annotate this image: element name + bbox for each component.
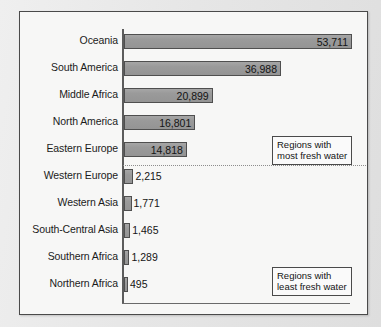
bar-value-label: 16,801	[125, 116, 191, 131]
bar-chart-plot-area: Oceania53,711South America36,988Middle A…	[20, 12, 367, 314]
value-axis-baseline	[122, 303, 350, 304]
bar	[124, 169, 133, 184]
bar	[124, 223, 130, 238]
bar-row: Western Asia1,771	[20, 196, 367, 211]
group-divider-dotted-line	[123, 165, 366, 166]
bar-value-label: 1,465	[132, 223, 158, 238]
bar-value-label: 495	[130, 277, 148, 292]
callout-least-line-2: least fresh water	[277, 281, 347, 292]
bar-value-label: 14,818	[125, 143, 183, 158]
bar: 16,801	[124, 115, 195, 130]
category-label: Eastern Europe	[0, 141, 118, 156]
callout-most-line-1: Regions with	[277, 139, 347, 150]
bar-value-label: 20,899	[125, 89, 209, 104]
bar-value-label: 53,711	[125, 35, 348, 50]
bar: 14,818	[124, 142, 187, 157]
category-label: Western Europe	[0, 168, 118, 183]
category-label: South-Central Asia	[0, 222, 118, 237]
bar-row: Western Europe2,215	[20, 169, 367, 184]
bar-value-label: 2,215	[135, 169, 161, 184]
bar-value-label: 36,988	[125, 62, 277, 77]
bar: 20,899	[124, 88, 213, 103]
category-label: Middle Africa	[0, 87, 118, 102]
bar-row: Southern Africa1,289	[20, 250, 367, 265]
callout-least-fresh-water: Regions with least fresh water	[272, 267, 352, 296]
bar-row: South-Central Asia1,465	[20, 223, 367, 238]
category-label: Western Asia	[0, 195, 118, 210]
category-label: South America	[0, 60, 118, 75]
bar-value-label: 1,289	[131, 250, 157, 265]
callout-least-line-1: Regions with	[277, 270, 347, 281]
category-label: Northern Africa	[0, 276, 118, 291]
bar-value-label: 1,771	[134, 196, 160, 211]
bar-row: North America16,801	[20, 115, 367, 130]
chart-frame: Oceania53,711South America36,988Middle A…	[19, 11, 368, 315]
bar	[124, 196, 132, 211]
category-label: North America	[0, 114, 118, 129]
category-label: Southern Africa	[0, 249, 118, 264]
bar-row: Middle Africa20,899	[20, 88, 367, 103]
category-label: Oceania	[0, 33, 118, 48]
callout-most-fresh-water: Regions with most fresh water	[272, 136, 352, 165]
callout-most-line-2: most fresh water	[277, 150, 347, 161]
bar	[124, 250, 129, 265]
bar: 53,711	[124, 34, 352, 49]
bar	[124, 277, 128, 292]
bar-row: Oceania53,711	[20, 34, 367, 49]
bar-row: South America36,988	[20, 61, 367, 76]
bar: 36,988	[124, 61, 281, 76]
